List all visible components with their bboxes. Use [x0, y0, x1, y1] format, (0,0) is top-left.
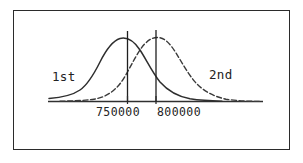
x-tick-label-750000: 750000: [96, 105, 140, 119]
series-label-first: 1st: [52, 69, 75, 84]
series-label-second: 2nd: [209, 67, 232, 82]
x-tick-label-800000: 800000: [157, 105, 201, 119]
figure-root: 750000 800000 1st 2nd: [0, 0, 303, 163]
distribution-chart: 750000 800000 1st 2nd: [0, 0, 303, 163]
